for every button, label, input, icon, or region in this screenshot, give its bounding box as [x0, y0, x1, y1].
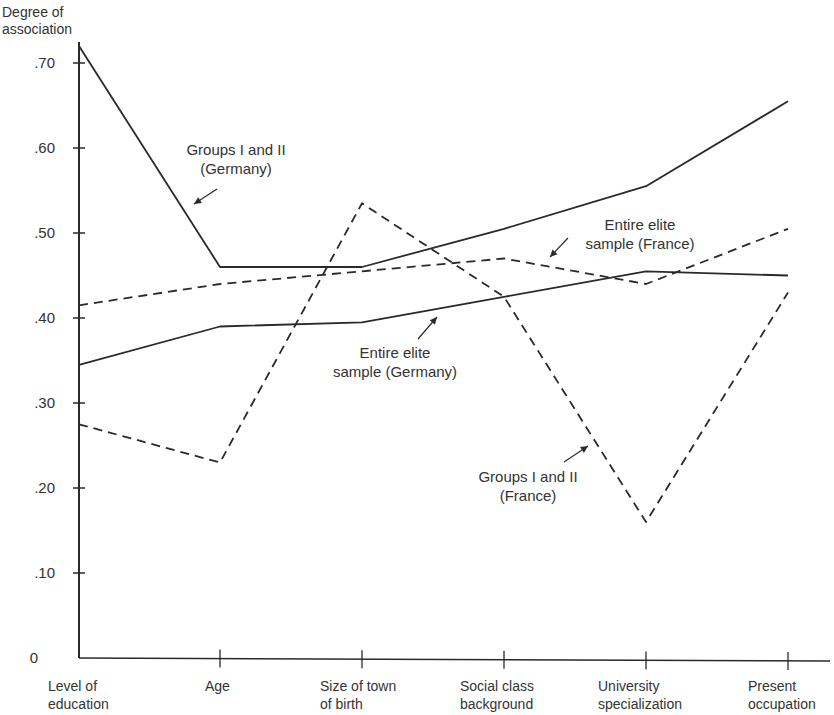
x-category-label-line: occupation — [748, 695, 816, 713]
x-category-label-line: Social class — [460, 677, 534, 695]
y-tick-label: .10 — [15, 564, 55, 581]
y-tick-label: .60 — [15, 139, 55, 156]
x-category-label-line: of birth — [320, 695, 396, 713]
annotation-elite-france: Entire elite sample (France) — [570, 215, 710, 253]
x-category-label-line — [205, 695, 230, 713]
annotation-groups-germany: Groups I and II (Germany) — [176, 140, 296, 178]
x-category-label: Presentoccupation — [748, 677, 816, 713]
annotation-text: Entire elite — [320, 343, 470, 362]
y-tick-label: .20 — [15, 479, 55, 496]
y-axis-title-line-1: Degree of — [2, 4, 72, 21]
arrow-groups-france-icon-head — [580, 446, 588, 453]
y-tick-label: .40 — [15, 309, 55, 326]
x-axis-line — [79, 658, 830, 661]
x-category-label-line: education — [48, 695, 109, 713]
x-category-label-line: Size of town — [320, 677, 396, 695]
annotation-text: (France) — [463, 486, 593, 505]
x-category-label: Social classbackground — [460, 677, 534, 713]
x-category-label-line: Level of — [48, 677, 109, 695]
annotation-groups-france: Groups I and II (France) — [463, 467, 593, 505]
y-tick-label: .30 — [15, 394, 55, 411]
y-tick-label: 0 — [8, 649, 38, 666]
annotation-text: Entire elite — [570, 215, 710, 234]
x-category-label-line: Age — [205, 677, 230, 695]
x-category-label-line: specialization — [598, 695, 682, 713]
chart-series — [79, 46, 788, 522]
annotation-elite-germany: Entire elite sample (Germany) — [320, 343, 470, 381]
y-axis-title-line-2: association — [2, 21, 72, 38]
annotation-text: Groups I and II — [176, 140, 296, 159]
annotation-text: sample (France) — [570, 234, 710, 253]
x-category-label-line: Present — [748, 677, 816, 695]
x-category-label: Size of townof birth — [320, 677, 396, 713]
y-tick-label: .70 — [15, 54, 55, 71]
annotation-text: (Germany) — [176, 159, 296, 178]
x-category-label: Age — [205, 677, 230, 713]
x-category-label-line: University — [598, 677, 682, 695]
y-tick-label: .50 — [15, 224, 55, 241]
annotation-text: Groups I and II — [463, 467, 593, 486]
annotation-text: sample (Germany) — [320, 362, 470, 381]
x-category-label: Universityspecialization — [598, 677, 682, 713]
y-axis-title: Degree of association — [2, 4, 72, 38]
x-category-label-line: background — [460, 695, 534, 713]
arrow-groups-germany-icon-head — [194, 197, 202, 204]
x-category-label: Level ofeducation — [48, 677, 109, 713]
